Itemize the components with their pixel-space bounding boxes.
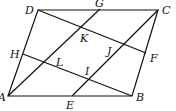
label-g: G xyxy=(95,0,104,10)
geometry-diagram: D G C H K J F L I A B E xyxy=(0,0,176,111)
label-k: K xyxy=(79,32,89,45)
segment-ag xyxy=(8,9,100,96)
label-d: D xyxy=(24,4,34,17)
parallelogram-abcd xyxy=(8,10,158,96)
label-i: I xyxy=(84,65,90,78)
label-b: B xyxy=(135,91,144,104)
label-j: J xyxy=(105,45,112,58)
label-h: H xyxy=(9,48,20,61)
label-a: A xyxy=(0,91,6,104)
label-c: C xyxy=(162,4,171,17)
label-l: L xyxy=(55,56,63,69)
label-f: F xyxy=(149,52,158,65)
label-e: E xyxy=(65,99,74,111)
